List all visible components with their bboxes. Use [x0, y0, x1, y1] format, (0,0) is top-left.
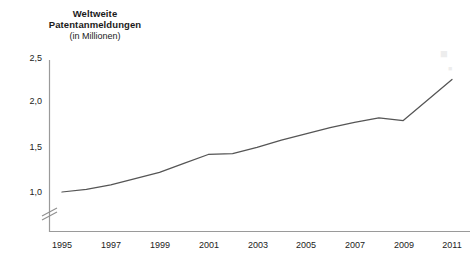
watermark-logo-icon: ■ ■: [432, 44, 466, 74]
plot-area: [0, 0, 476, 265]
ytick-label-1-5: 1,5: [10, 142, 42, 152]
xtick-label-2011: 2011: [432, 240, 472, 250]
xtick-label-2005: 2005: [286, 240, 326, 250]
ytick-label-2-0: 2,0: [10, 96, 42, 106]
xtick-label-1997: 1997: [91, 240, 131, 250]
ytick-label-2-5: 2,5: [10, 53, 42, 63]
xtick-label-2007: 2007: [335, 240, 375, 250]
xtick-label-2009: 2009: [384, 240, 424, 250]
data-series-line: [62, 79, 452, 192]
xtick-label-2003: 2003: [238, 240, 278, 250]
svg-text:■: ■: [440, 46, 448, 61]
xtick-label-1999: 1999: [140, 240, 180, 250]
chart-container: Weltweite Patentanmeldungen (in Millione…: [0, 0, 476, 265]
xtick-label-1995: 1995: [42, 240, 82, 250]
ytick-label-1-0: 1,0: [10, 187, 42, 197]
svg-text:■: ■: [448, 65, 452, 72]
xtick-label-2001: 2001: [189, 240, 229, 250]
